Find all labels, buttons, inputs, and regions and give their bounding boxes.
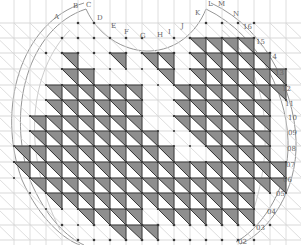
grid-node-dot — [109, 239, 111, 241]
grid-node-dot — [173, 37, 176, 40]
grid-node-dot — [29, 115, 31, 117]
grid-node-dot — [93, 115, 95, 117]
axis-label: I — [168, 28, 171, 36]
shaded-panel-triangle — [222, 38, 238, 53]
shaded-panel-triangle — [94, 193, 110, 209]
shaded-panel-triangle — [222, 131, 238, 146]
axis-label: 13 — [275, 69, 284, 77]
grid-node-dot — [253, 208, 255, 210]
shaded-panel-triangle — [78, 131, 94, 146]
shaded-panel-triangle — [142, 146, 158, 162]
grid-node-dot — [205, 192, 207, 194]
shaded-panel-triangle — [110, 116, 126, 131]
shaded-panel-triangle — [238, 69, 254, 85]
shaded-panel-triangle — [126, 209, 142, 225]
grid-node-dot — [237, 208, 239, 210]
shaded-panel-triangle — [238, 178, 254, 193]
shaded-panel-triangle — [158, 146, 174, 162]
grid-node-dot — [237, 68, 239, 70]
shaded-panel-triangle — [94, 131, 110, 146]
grid-node-dot — [61, 177, 63, 179]
grid-node-dot — [189, 84, 191, 86]
shaded-panel-triangle — [174, 178, 190, 193]
axis-label: 02 — [238, 238, 247, 245]
grid-node-dot — [125, 224, 127, 226]
shaded-panel-triangle — [126, 85, 142, 100]
grid-node-dot — [221, 84, 223, 86]
grid-node-dot — [45, 177, 47, 179]
grid-node-dot — [93, 177, 95, 179]
shaded-panel-triangle — [62, 53, 78, 69]
grid-node-dot — [173, 84, 175, 86]
axis-label: 03 — [256, 224, 265, 232]
shaded-panel-triangle — [110, 53, 126, 69]
axis-label: N — [233, 10, 239, 18]
grid-node-dot — [125, 37, 128, 40]
axis-label: D — [97, 14, 103, 22]
grid-node-dot — [189, 161, 191, 163]
shaded-panel-triangle — [190, 178, 206, 193]
grid-node-dot — [269, 177, 271, 179]
shaded-panel-triangle — [222, 85, 238, 100]
grid-node-dot — [173, 115, 175, 117]
grid-node-dot — [45, 84, 47, 86]
grid-node-dot — [61, 37, 64, 40]
grid-node-dot — [253, 115, 255, 117]
shaded-panel-triangle — [46, 116, 62, 131]
axis-label: 12 — [282, 85, 291, 93]
shaded-panel-triangle — [30, 131, 46, 146]
grid-node-dot — [205, 208, 207, 210]
grid-node-dot — [157, 192, 159, 194]
grid-node-dot — [237, 84, 239, 86]
shaded-panel-triangle — [254, 146, 270, 162]
shaded-panel-triangle — [158, 193, 174, 209]
grid-node-dot — [109, 224, 111, 226]
grid-node-dot — [109, 68, 111, 70]
grid-node-dot — [173, 52, 175, 54]
shaded-panel-triangle — [238, 53, 254, 69]
shaded-panel-triangle — [110, 100, 126, 116]
grid-node-dot — [77, 84, 79, 86]
grid-node-dot — [189, 99, 191, 101]
shaded-panel-triangle — [46, 85, 62, 100]
grid-node-dot — [61, 192, 63, 194]
grid-node-dot — [253, 145, 255, 147]
grid-node-dot — [141, 68, 143, 70]
grid-node-dot — [189, 115, 191, 117]
grid-node-dot — [77, 192, 79, 194]
shaded-panel-triangle — [110, 193, 126, 209]
shaded-panel-triangle — [238, 131, 254, 146]
grid-node-dot — [77, 161, 79, 163]
shaded-panel-triangle — [14, 162, 30, 178]
shaded-panel-triangle — [78, 146, 94, 162]
axis-label: 11 — [285, 100, 294, 108]
shaded-panel-triangle — [206, 178, 222, 193]
grid-node-dot — [221, 130, 223, 132]
grid-node-dot — [205, 115, 207, 117]
grid-node-dot — [93, 52, 96, 55]
grid-node-dot — [253, 239, 256, 242]
grid-node-dot — [205, 161, 207, 163]
grid-node-dot — [189, 239, 192, 242]
shaded-panel-triangle — [190, 100, 206, 116]
grid-node-dot — [237, 37, 239, 39]
shaded-panel-triangle — [142, 131, 158, 146]
grid-node-dot — [205, 22, 208, 25]
axis-label: 05 — [276, 190, 285, 198]
grid-node-dot — [141, 52, 143, 54]
grid-node-dot — [93, 22, 96, 25]
grid-node-dot — [221, 52, 223, 54]
shaded-panel-triangle — [126, 100, 142, 116]
grid-node-dot — [189, 192, 191, 194]
grid-node-dot — [125, 52, 127, 54]
grid-node-dot — [221, 224, 223, 226]
grid-node-dot — [189, 52, 191, 54]
shaded-panel-triangle — [206, 38, 222, 53]
grid-node-dot — [189, 208, 191, 210]
grid-node-dot — [157, 239, 159, 241]
top-notch-arc — [86, 9, 206, 51]
shaded-panel-triangle — [46, 146, 62, 162]
shaded-panel-triangle — [254, 131, 270, 146]
grid-node-dot — [141, 208, 143, 210]
grid-node-dot — [253, 52, 255, 54]
